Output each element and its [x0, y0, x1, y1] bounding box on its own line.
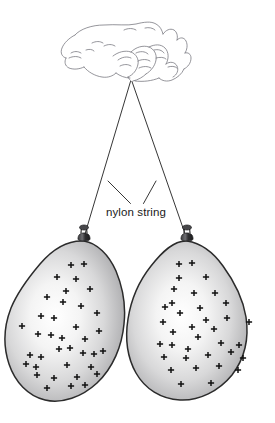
balloon-left-body — [5, 241, 125, 401]
figure-svg: nylon string — [0, 0, 275, 423]
balloon-left-neck-cap — [80, 225, 89, 230]
balloon-right-knot — [181, 233, 193, 241]
balloon-right-body — [127, 241, 247, 400]
illustration-canvas: nylon string — [0, 0, 275, 423]
balloon-right — [127, 225, 252, 400]
balloon-left-knot — [78, 233, 90, 241]
balloon-left — [5, 225, 125, 401]
leader-line-left — [108, 181, 131, 204]
nylon-string-label: nylon string — [106, 206, 166, 218]
hand-pinching-strings — [61, 22, 191, 81]
annotation-leader-lines — [108, 181, 156, 204]
leader-line-right — [144, 181, 157, 204]
balloon-right-neck-cap — [183, 225, 192, 230]
